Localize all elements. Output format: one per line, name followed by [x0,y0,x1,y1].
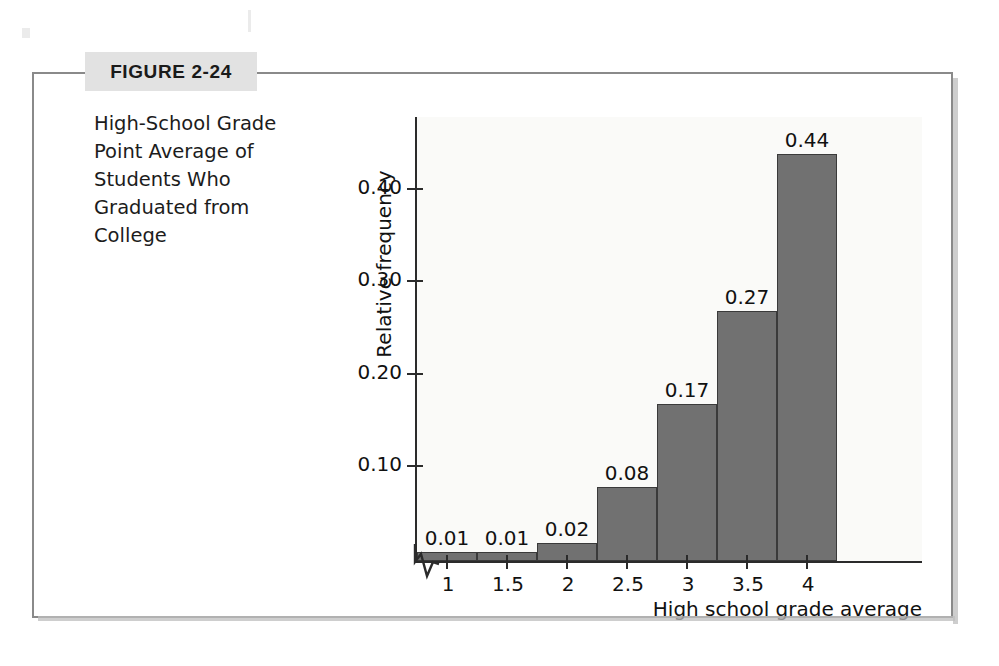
figure-caption: High-School Grade Point Average of Stude… [94,110,299,250]
frame-shadow [953,78,958,624]
bar-value-label: 0.44 [767,128,847,152]
x-tick-label: 1.5 [478,572,538,596]
bar-value-label: 0.17 [647,378,727,402]
y-tick-mark [407,280,423,282]
x-tick-mark [686,555,688,569]
bar-value-label: 0.27 [707,285,787,309]
y-tick-mark [407,188,423,190]
x-tick-mark [746,555,748,569]
bar-3.5 [717,311,777,561]
histogram-chart: 0.40 0.30 0.20 0.10 Relative frequency 0… [332,102,932,612]
scan-artifact [248,10,251,32]
bar-4 [777,154,837,561]
bar-value-label: 0.08 [587,461,667,485]
y-tick-label: 0.10 [332,452,402,476]
axis-break-icon [410,542,456,588]
figure-tag-label: FIGURE 2-24 [110,61,232,83]
y-tick-mark [407,465,423,467]
figure-tag: FIGURE 2-24 [85,52,257,91]
x-tick-mark [506,555,508,569]
y-tick-mark [407,373,423,375]
y-axis-title: Relative frequency [372,134,396,394]
x-tick-mark [806,555,808,569]
x-tick-mark [566,555,568,569]
x-tick-label: 2.5 [598,572,658,596]
figure-frame: High-School Grade Point Average of Stude… [32,72,953,618]
x-axis-line [415,561,922,563]
x-tick-label: 3 [658,572,718,596]
x-axis-title: High school grade average [622,597,922,621]
x-tick-label: 4 [778,572,838,596]
scan-artifact [22,28,30,38]
x-tick-label: 2 [538,572,598,596]
x-tick-mark [626,555,628,569]
y-axis-line [415,117,417,562]
bar-value-label: 0.02 [527,517,607,541]
x-tick-label: 3.5 [718,572,778,596]
